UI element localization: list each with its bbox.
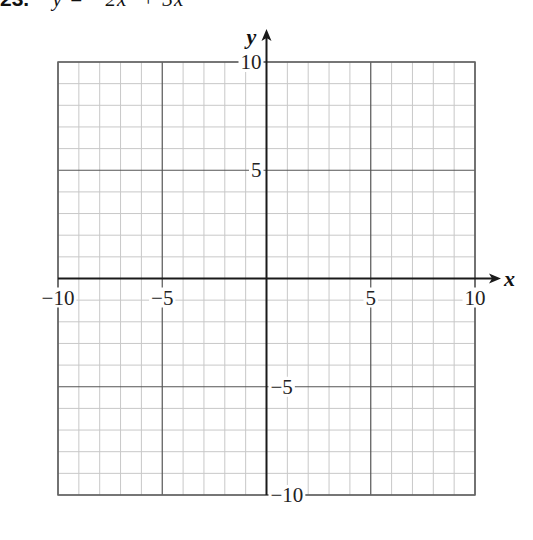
x-tick-label: −5 (151, 286, 173, 310)
y-tick-label: −10 (271, 483, 304, 507)
y-tick-label: 5 (251, 158, 262, 182)
coordinate-grid: xy−10−5510105−5−10 (0, 0, 533, 540)
x-axis-label: x (503, 266, 515, 291)
x-tick-label: −10 (42, 286, 75, 310)
y-axis-label: y (244, 24, 257, 49)
x-tick-label: 10 (465, 286, 486, 310)
y-tick-label: 10 (241, 50, 262, 74)
x-tick-label: 5 (366, 286, 377, 310)
y-tick-label: −5 (271, 375, 293, 399)
